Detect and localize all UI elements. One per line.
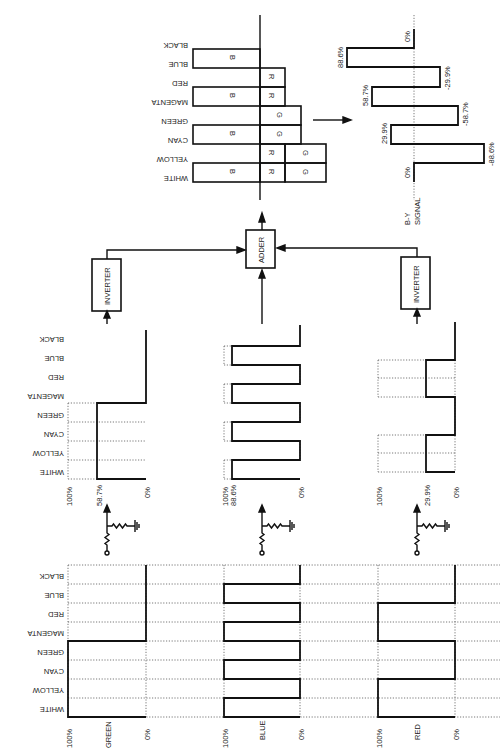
attenuated-signals bbox=[68, 322, 455, 479]
svg-text:CYAN: CYAN bbox=[44, 430, 64, 439]
inverter-right: INVERTER bbox=[401, 257, 430, 309]
svg-text:INVERTER: INVERTER bbox=[103, 267, 112, 305]
svg-text:100%: 100% bbox=[65, 728, 74, 748]
adder-bar-labels: WHITE YELLOW CYAN GREEN MAGENTA RED BLUE… bbox=[151, 41, 188, 183]
svg-text:RED: RED bbox=[413, 724, 422, 740]
svg-text:B-Y: B-Y bbox=[403, 212, 412, 225]
adder-block: ADDER bbox=[246, 230, 275, 268]
svg-text:0%: 0% bbox=[297, 487, 306, 498]
red-attenuated-waveform bbox=[426, 322, 455, 472]
svg-text:G: G bbox=[301, 150, 310, 156]
svg-text:BLUE: BLUE bbox=[44, 354, 64, 363]
input-bar-labels: WHITE YELLOW CYAN GREEN MAGENTA RED BLUE… bbox=[27, 572, 64, 714]
svg-text:R: R bbox=[267, 169, 276, 175]
svg-text:RED: RED bbox=[172, 79, 188, 88]
svg-text:100%: 100% bbox=[221, 728, 230, 748]
svg-text:B: B bbox=[228, 169, 237, 174]
svg-text:G: G bbox=[275, 131, 284, 137]
adder-output-stack: B R G R G B G G B R R B bbox=[193, 15, 326, 200]
svg-text:GREEN: GREEN bbox=[104, 721, 113, 748]
svg-text:-88.6%: -88.6% bbox=[487, 142, 496, 166]
svg-text:RED: RED bbox=[48, 373, 64, 382]
svg-text:MAGENTA: MAGENTA bbox=[27, 629, 64, 638]
svg-text:0%: 0% bbox=[143, 729, 152, 740]
svg-text:WHITE: WHITE bbox=[40, 468, 64, 477]
svg-text:G: G bbox=[301, 169, 310, 175]
svg-text:0%: 0% bbox=[452, 729, 461, 740]
svg-text:BLACK: BLACK bbox=[39, 572, 64, 581]
svg-text:YELLOW: YELLOW bbox=[156, 155, 188, 164]
attenuated-bar-labels: WHITE YELLOW CYAN GREEN MAGENTA RED BLUE… bbox=[27, 335, 64, 477]
svg-text:MAGENTA: MAGENTA bbox=[151, 98, 188, 107]
svg-text:CYAN: CYAN bbox=[168, 136, 188, 145]
svg-text:0%: 0% bbox=[297, 729, 306, 740]
svg-text:100%: 100% bbox=[65, 486, 74, 506]
attenuated-axis-labels: 100% 58.7% 0% 100% 88.6% 0% 100% 29.9% 0… bbox=[65, 484, 461, 506]
svg-text:BLUE: BLUE bbox=[44, 591, 64, 600]
attenuator-blue bbox=[259, 505, 294, 555]
green-attenuated-waveform bbox=[97, 330, 146, 479]
svg-text:88.6%: 88.6% bbox=[336, 46, 345, 68]
svg-text:GREEN: GREEN bbox=[161, 117, 188, 126]
attenuator-green bbox=[104, 505, 139, 555]
svg-text:88.6%: 88.6% bbox=[229, 484, 238, 506]
svg-text:0%: 0% bbox=[143, 487, 152, 498]
connectors bbox=[104, 213, 420, 324]
svg-text:SIGNAL: SIGNAL bbox=[413, 197, 422, 225]
blue-waveform bbox=[224, 565, 300, 717]
svg-text:-58.7%: -58.7% bbox=[461, 102, 470, 126]
svg-text:R: R bbox=[267, 150, 276, 156]
svg-text:0%: 0% bbox=[452, 487, 461, 498]
svg-text:WHITE: WHITE bbox=[40, 705, 64, 714]
input-signals bbox=[68, 565, 500, 717]
blue-attenuated-waveform bbox=[232, 325, 300, 479]
green-waveform bbox=[68, 565, 146, 717]
svg-text:R: R bbox=[267, 74, 276, 80]
diagram-canvas: WHITE YELLOW CYAN GREEN MAGENTA RED BLUE… bbox=[0, 0, 503, 751]
attenuator-red bbox=[414, 505, 449, 555]
inverter-left: INVERTER bbox=[92, 259, 121, 311]
svg-text:B: B bbox=[228, 131, 237, 136]
svg-text:B: B bbox=[228, 93, 237, 98]
svg-text:58.7%: 58.7% bbox=[95, 484, 104, 506]
svg-text:WHITE: WHITE bbox=[164, 174, 188, 183]
svg-text:INVERTER: INVERTER bbox=[412, 265, 421, 303]
red-waveform bbox=[378, 565, 455, 717]
svg-text:BLACK: BLACK bbox=[39, 335, 64, 344]
svg-text:RED: RED bbox=[48, 610, 64, 619]
svg-text:CYAN: CYAN bbox=[44, 667, 64, 676]
svg-text:0%: 0% bbox=[403, 167, 412, 178]
svg-text:GREEN: GREEN bbox=[37, 411, 64, 420]
svg-text:29.9%: 29.9% bbox=[380, 122, 389, 144]
svg-text:0%: 0% bbox=[403, 31, 412, 42]
svg-text:R: R bbox=[267, 93, 276, 99]
svg-text:BLUE: BLUE bbox=[258, 720, 267, 740]
by-signal: 0% 88.6% -29.9% 58.7% -58.7% 29.9% -88.6… bbox=[336, 15, 496, 225]
svg-text:29.9%: 29.9% bbox=[423, 484, 432, 506]
svg-text:BLUE: BLUE bbox=[168, 60, 188, 69]
svg-text:YELLOW: YELLOW bbox=[32, 686, 64, 695]
svg-text:G: G bbox=[275, 112, 284, 118]
svg-text:YELLOW: YELLOW bbox=[32, 449, 64, 458]
svg-text:-29.9%: -29.9% bbox=[443, 66, 452, 90]
svg-text:58.7%: 58.7% bbox=[361, 84, 370, 106]
svg-text:GREEN: GREEN bbox=[37, 648, 64, 657]
input-axis-labels: 100% GREEN 0% 100% BLUE 0% 100% RED 0% bbox=[65, 720, 461, 748]
svg-text:B: B bbox=[228, 55, 237, 60]
svg-text:100%: 100% bbox=[375, 728, 384, 748]
svg-text:MAGENTA: MAGENTA bbox=[27, 392, 64, 401]
output-arrow bbox=[313, 117, 351, 123]
svg-text:BLACK: BLACK bbox=[163, 41, 188, 50]
svg-text:ADDER: ADDER bbox=[257, 236, 266, 263]
svg-text:100%: 100% bbox=[375, 486, 384, 506]
